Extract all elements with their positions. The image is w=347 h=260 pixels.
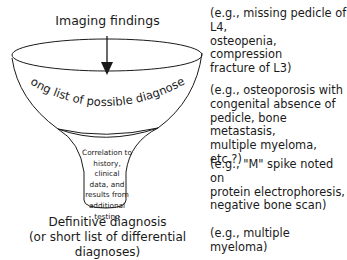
funnel-bowl-lower-rim [58,128,158,137]
example-possible-diagnoses: (e.g., osteoporosis with congenital abse… [210,84,347,167]
stem-label: Correlation to history, clinical data, a… [80,148,134,222]
definitive-diagnosis-title: Definitive diagnosis [0,215,215,230]
arrow-down-icon [101,62,113,75]
stem-label-line: history, clinical [80,159,134,180]
example-definitive: (e.g., multiple myeloma) [210,227,347,255]
definitive-diagnosis-subtitle: (or short list of differential diagnoses… [0,230,215,260]
stem-label-line: results from [80,190,134,201]
example-imaging: (e.g., missing pedicle of L4, osteopenia… [210,7,347,76]
example-correlation: (e.g., "M" spike noted on protein electr… [210,158,347,213]
stem-label-line: data, and [80,180,134,191]
stem-label-line: additional [80,201,134,212]
stem-label-line: Correlation to [80,148,134,159]
imaging-findings-label: Imaging findings [30,13,185,28]
definitive-diagnosis-label: Definitive diagnosis (or short list of d… [0,215,215,260]
